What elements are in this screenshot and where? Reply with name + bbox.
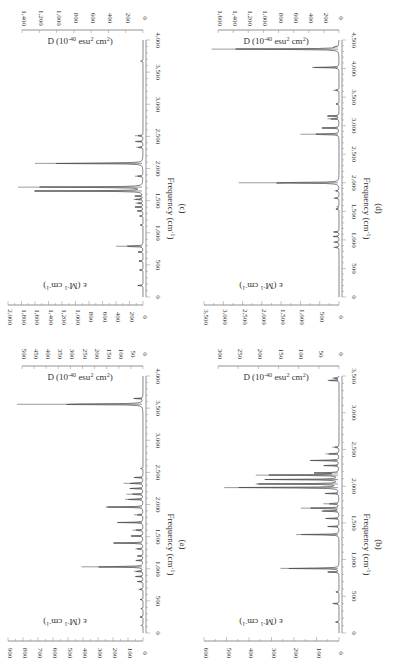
epsilon-tick-label: 400 bbox=[81, 648, 89, 659]
dipole-axis-label-part: D (10 bbox=[243, 372, 264, 382]
spectrum-chart-b: 05001,0001,5002,0002,5003,0003,500Freque… bbox=[196, 336, 396, 671]
dipole-axis-label-part: cm bbox=[93, 372, 106, 382]
frequency-tick-label: 0 bbox=[350, 295, 358, 299]
frequency-axis-label: Frequency (cm-1) bbox=[362, 177, 372, 239]
dipole-tick-label: 50 bbox=[129, 351, 137, 359]
epsilon-axis-label-part: cm bbox=[51, 281, 64, 291]
epsilon-tick-label: 1,000 bbox=[298, 309, 306, 325]
frequency-axis-label-part: ) bbox=[166, 237, 176, 240]
epsilon-axis-label-part: cm bbox=[51, 617, 64, 627]
frequency-axis-label-part: Frequency (cm bbox=[166, 513, 176, 567]
panel-label: (c) bbox=[178, 204, 188, 214]
frequency-tick-label: 4,000 bbox=[154, 368, 162, 384]
epsilon-tick-label: 3,500 bbox=[202, 309, 210, 325]
frequency-axis-label: Frequency (cm-1) bbox=[362, 513, 372, 575]
frequency-tick-label: 500 bbox=[154, 260, 162, 271]
epsilon-axis-label-part: cm bbox=[247, 617, 260, 627]
epsilon-tick-label: 100 bbox=[315, 648, 323, 659]
frequency-tick-label: 2,000 bbox=[350, 175, 358, 191]
dipole-tick-label: 0 bbox=[141, 16, 149, 20]
frequency-tick-label: 3,000 bbox=[154, 96, 162, 112]
dipole-axis-label-part: -40 bbox=[264, 36, 272, 42]
spectrum-line bbox=[34, 40, 143, 297]
dipole-tick-label: 800 bbox=[277, 13, 285, 24]
epsilon-axis-label-part: ) bbox=[43, 281, 46, 291]
frequency-tick-label: 0 bbox=[154, 295, 162, 299]
frequency-tick-label: 0 bbox=[350, 631, 358, 635]
dipole-tick-label: 500 bbox=[20, 349, 28, 360]
dipole-axis-label-part: esu bbox=[272, 372, 287, 382]
dipole-tick-label: 300 bbox=[216, 349, 224, 360]
epsilon-tick-label: 500 bbox=[318, 312, 326, 323]
epsilon-tick-label: 600 bbox=[51, 648, 59, 659]
dipole-axis-label: D (10-40 esu2 cm2) bbox=[243, 372, 308, 382]
epsilon-tick-label: 600 bbox=[202, 648, 210, 659]
dipole-axis-label-part: -40 bbox=[264, 372, 272, 378]
frequency-tick-label: 2,500 bbox=[154, 129, 162, 145]
frequency-tick-label: 4,500 bbox=[350, 32, 358, 48]
epsilon-tick-label: 900 bbox=[6, 648, 14, 659]
dipole-axis-label-part: esu bbox=[272, 36, 287, 46]
epsilon-axis-label-part: ) bbox=[239, 281, 242, 291]
dipole-tick-label: 300 bbox=[68, 349, 76, 360]
spectrum-line bbox=[67, 376, 143, 633]
frequency-tick-label: 1,500 bbox=[154, 529, 162, 545]
epsilon-tick-label: 400 bbox=[114, 312, 122, 323]
frequency-tick-label: 3,500 bbox=[350, 368, 358, 384]
dipole-axis-label-part: ) bbox=[110, 36, 113, 46]
epsilon-tick-label: 1,800 bbox=[20, 309, 28, 325]
frequency-axis-label-part: ) bbox=[166, 573, 176, 576]
frequency-tick-label: 3,000 bbox=[350, 118, 358, 134]
dipole-tick-label: 450 bbox=[32, 349, 40, 360]
epsilon-tick-label: 700 bbox=[36, 648, 44, 659]
dipole-tick-label: 250 bbox=[236, 349, 244, 360]
dipole-axis-label-part: ) bbox=[306, 36, 309, 46]
epsilon-axis-label-part: ε (M bbox=[266, 281, 283, 291]
dipole-tick-label: 400 bbox=[44, 349, 52, 360]
frequency-tick-label: 500 bbox=[154, 596, 162, 607]
dipole-axis-label-part: cm bbox=[289, 372, 302, 382]
frequency-tick-label: 2,500 bbox=[350, 442, 358, 458]
epsilon-axis-label: ε (M-1 cm-1) bbox=[43, 617, 86, 627]
dipole-axis-label-part: esu bbox=[76, 36, 91, 46]
dipole-tick-label: 350 bbox=[56, 349, 64, 360]
epsilon-tick-label: 400 bbox=[247, 648, 255, 659]
epsilon-tick-label: 500 bbox=[225, 648, 233, 659]
epsilon-tick-label: 200 bbox=[111, 648, 119, 659]
frequency-tick-label: 3,500 bbox=[350, 89, 358, 105]
dipole-tick-label: 200 bbox=[256, 349, 264, 360]
frequency-axis-label-part: Frequency (cm bbox=[362, 513, 372, 567]
dipole-axis-label-part: esu bbox=[76, 372, 91, 382]
frequency-tick-label: 4,000 bbox=[350, 61, 358, 77]
dipole-tick-label: 150 bbox=[105, 349, 113, 360]
epsilon-tick-label: 800 bbox=[21, 648, 29, 659]
dipole-tick-label: 100 bbox=[117, 349, 125, 360]
epsilon-axis-label: ε (M-1 cm-1) bbox=[239, 281, 282, 291]
frequency-tick-label: 1,000 bbox=[154, 225, 162, 241]
dipole-axis-label-part: ) bbox=[306, 372, 309, 382]
frequency-tick-label: 3,000 bbox=[154, 432, 162, 448]
frequency-tick-label: 1,000 bbox=[154, 561, 162, 577]
dipole-tick-label: 1,200 bbox=[246, 10, 254, 26]
epsilon-tick-label: 3,000 bbox=[221, 309, 229, 325]
panel-label: (b) bbox=[374, 539, 384, 550]
dipole-axis-label-part: cm bbox=[289, 36, 302, 46]
frequency-tick-label: 1,000 bbox=[350, 232, 358, 248]
epsilon-tick-label: 0 bbox=[141, 651, 149, 655]
dipole-axis-label-part: D (10 bbox=[47, 372, 68, 382]
frequency-axis-label-part: Frequency (cm bbox=[166, 177, 176, 231]
epsilon-tick-label: 1,000 bbox=[74, 309, 82, 325]
dipole-tick-label: 400 bbox=[307, 13, 315, 24]
spectrum-chart-d: 05001,0001,5002,0002,5003,0003,5004,0004… bbox=[196, 0, 396, 335]
epsilon-tick-label: 300 bbox=[270, 648, 278, 659]
epsilon-axis-label-part: ε (M bbox=[70, 281, 87, 291]
dipole-tick-label: 50 bbox=[317, 351, 325, 359]
epsilon-tick-label: 2,000 bbox=[260, 309, 268, 325]
epsilon-tick-label: 1,400 bbox=[47, 309, 55, 325]
dipole-tick-label: 150 bbox=[277, 349, 285, 360]
frequency-tick-label: 2,000 bbox=[154, 497, 162, 513]
frequency-tick-label: 2,000 bbox=[350, 478, 358, 494]
dipole-tick-label: 0 bbox=[337, 16, 345, 20]
frequency-tick-label: 3,500 bbox=[154, 64, 162, 80]
frequency-axis-label-part: ) bbox=[362, 573, 372, 576]
